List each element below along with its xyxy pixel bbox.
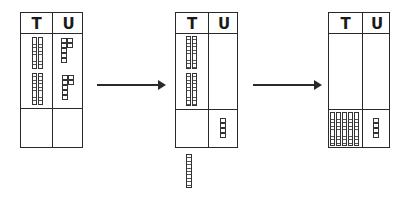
column-divider bbox=[52, 13, 53, 147]
tens-header: T bbox=[329, 13, 362, 35]
tens-rod bbox=[342, 112, 347, 146]
tens-rod bbox=[354, 112, 359, 146]
column-divider bbox=[362, 13, 363, 147]
tens-header: T bbox=[176, 13, 208, 35]
unit-cube bbox=[220, 133, 226, 138]
tens-rod bbox=[32, 73, 37, 105]
unit-cube bbox=[68, 80, 74, 85]
tens-rod bbox=[192, 73, 197, 106]
tens-rod bbox=[38, 73, 43, 105]
units-header: U bbox=[53, 13, 84, 35]
units-header: U bbox=[363, 13, 391, 35]
unit-cube bbox=[62, 95, 68, 100]
arrow-right-icon bbox=[97, 84, 159, 86]
tens-rod bbox=[336, 112, 341, 146]
place-value-chart-right: T U bbox=[328, 12, 390, 148]
removed-tens-rod bbox=[186, 154, 192, 188]
unit-cube bbox=[373, 133, 379, 138]
header-divider bbox=[176, 33, 237, 34]
units-header: U bbox=[209, 13, 239, 35]
tens-header: T bbox=[21, 13, 52, 35]
column-divider bbox=[208, 13, 209, 147]
place-value-chart-middle: T U bbox=[175, 12, 238, 148]
place-value-chart-left: T U bbox=[20, 12, 83, 148]
tens-rod bbox=[330, 112, 335, 146]
tens-rod bbox=[186, 73, 191, 106]
tens-rod bbox=[348, 112, 353, 146]
tens-rod bbox=[186, 36, 191, 69]
header-divider bbox=[329, 33, 389, 34]
tens-rod bbox=[192, 36, 197, 69]
row-divider bbox=[329, 109, 389, 110]
row-divider bbox=[176, 109, 237, 110]
tens-rod bbox=[38, 37, 43, 69]
arrow-right-icon bbox=[253, 84, 315, 86]
unit-cube bbox=[61, 58, 67, 63]
tens-rod bbox=[32, 37, 37, 69]
unit-cube bbox=[67, 43, 73, 48]
